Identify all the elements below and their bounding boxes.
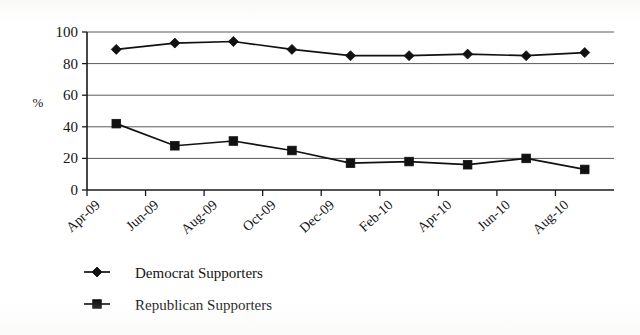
data-point-diamond-marker xyxy=(228,36,238,46)
data-series-group xyxy=(111,36,589,173)
y-axis-tick-label: 40 xyxy=(63,119,78,135)
x-axis-tick-label: Jun-10 xyxy=(475,197,513,234)
data-point-square-marker xyxy=(580,165,589,174)
data-point-diamond-marker xyxy=(521,51,531,61)
y-axis-tick-labels-group: 020406080100 xyxy=(56,24,79,198)
data-point-square-marker xyxy=(288,146,297,155)
data-point-diamond-marker xyxy=(404,51,414,61)
x-axis-ticks-group xyxy=(87,190,555,196)
series-1 xyxy=(111,36,589,60)
x-axis-tick-label: Oct-09 xyxy=(240,197,279,234)
x-axis-tick-label: Feb-10 xyxy=(356,197,396,235)
data-point-square-marker xyxy=(171,141,180,150)
chart-legend: Democrat SupportersRepublican Supporters xyxy=(84,265,272,313)
x-axis-tick-label: Dec-09 xyxy=(297,197,338,236)
line-chart: % 020406080100 Apr-09Jun-09Aug-09Oct-09D… xyxy=(0,0,640,335)
y-axis-tick-label: 60 xyxy=(63,87,78,103)
y-axis-tick-label: 20 xyxy=(63,150,78,166)
data-point-square-marker xyxy=(463,160,472,169)
y-axis-tick-label: 0 xyxy=(71,182,79,198)
y-axis-title: % xyxy=(33,95,44,110)
legend-label: Democrat Supporters xyxy=(135,265,263,281)
x-axis-tick-label: Aug-09 xyxy=(178,197,220,237)
data-point-square-marker xyxy=(229,137,238,146)
x-axis-tick-label: Jun-09 xyxy=(123,197,161,234)
data-point-diamond-marker xyxy=(111,44,121,54)
chart-svg: % 020406080100 Apr-09Jun-09Aug-09Oct-09D… xyxy=(0,0,640,335)
legend-item[interactable]: Republican Supporters xyxy=(84,297,272,313)
data-point-square-marker xyxy=(112,119,121,128)
x-axis-tick-labels-group: Apr-09Jun-09Aug-09Oct-09Dec-09Feb-10Apr-… xyxy=(63,197,571,237)
x-axis-tick-label: Apr-09 xyxy=(63,197,103,235)
x-axis-tick-label: Aug-10 xyxy=(530,197,572,237)
data-point-square-marker xyxy=(346,159,355,168)
legend-diamond-marker xyxy=(92,267,102,277)
data-point-diamond-marker xyxy=(287,44,297,54)
legend-label: Republican Supporters xyxy=(135,297,272,313)
data-point-diamond-marker xyxy=(463,49,473,59)
legend-item[interactable]: Democrat Supporters xyxy=(84,265,263,281)
x-axis-tick-label: Apr-10 xyxy=(414,197,454,235)
series-2 xyxy=(112,119,589,173)
y-axis-tick-label: 100 xyxy=(56,24,79,40)
legend-square-marker xyxy=(93,300,102,309)
y-axis-tick-label: 80 xyxy=(63,56,78,72)
data-point-square-marker xyxy=(522,154,531,163)
data-point-diamond-marker xyxy=(580,48,590,58)
data-point-square-marker xyxy=(405,157,414,166)
data-point-diamond-marker xyxy=(170,38,180,48)
data-point-diamond-marker xyxy=(346,51,356,61)
